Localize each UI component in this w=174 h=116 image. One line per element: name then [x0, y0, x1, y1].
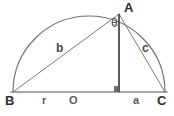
segment-label-b: b — [56, 42, 63, 54]
center-label-o: O — [69, 95, 78, 106]
vertex-label-c: C — [157, 94, 166, 107]
vertex-label-b: B — [5, 94, 14, 107]
right-angle-square-icon — [114, 87, 119, 92]
segment-label-c: c — [142, 42, 149, 54]
segment-label-a: a — [133, 95, 139, 106]
vertex-label-a: A — [124, 1, 133, 14]
angle-label-theta: θ — [111, 17, 118, 29]
geometry-canvas — [0, 0, 174, 116]
geometry-diagram: B C A O b c r a θ — [0, 0, 174, 116]
segment-label-r: r — [42, 95, 46, 106]
segment-b-line — [13, 14, 119, 92]
